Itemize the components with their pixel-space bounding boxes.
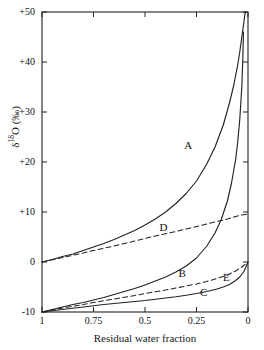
y-tick-label: +50 [0,7,35,17]
axis-ticks [42,12,248,312]
curve-A [42,12,246,262]
curve-label-C: C [200,286,207,298]
figure-container: +50+40+30+20+100-10 10.750.50.250 ABCDE … [0,0,264,350]
x-tick-label: 0.5 [139,316,152,326]
axes-frame [42,12,248,312]
x-tick-label: 1 [40,316,45,326]
x-tick-label: 0 [246,316,251,326]
x-tick-label: 0.25 [188,316,206,326]
chart-canvas [0,0,264,350]
curve-label-E: E [223,271,230,283]
y-tick-label: +10 [0,207,35,217]
y-tick-label: -10 [0,307,35,317]
y-axis-title: δ18O (‰) [7,67,21,187]
curve-label-D: D [160,221,168,233]
y-tick-label: 0 [0,257,35,267]
curve-D [42,214,248,262]
y-tick-label: +40 [0,57,35,67]
data-curves [42,12,248,312]
curve-label-A: A [184,139,192,151]
x-axis-title: Residual water fraction [42,332,248,344]
curve-B [42,32,243,312]
plot-border [42,12,248,312]
curve-label-B: B [178,267,185,279]
x-tick-label: 0.75 [85,316,103,326]
